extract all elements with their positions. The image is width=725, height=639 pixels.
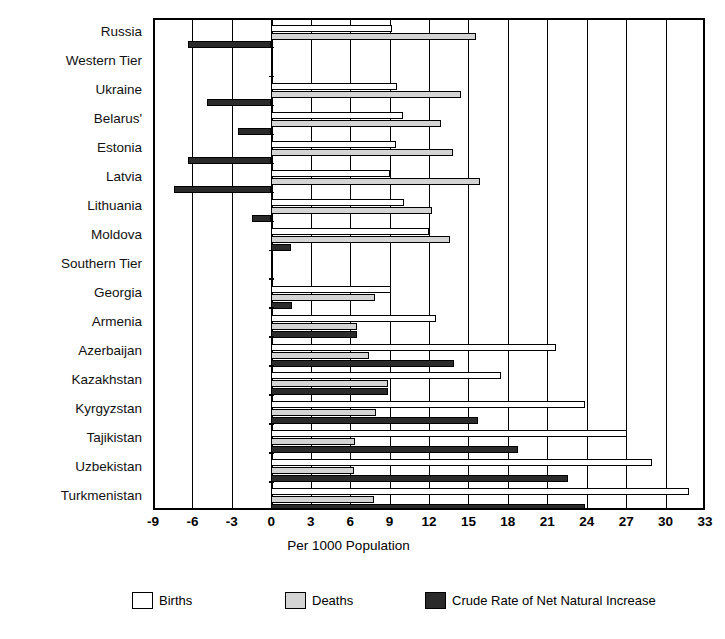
bar-births (271, 459, 652, 466)
bar-natural (238, 128, 271, 135)
bar-group (155, 454, 703, 483)
bar-group (155, 309, 703, 338)
bar-births (271, 372, 501, 379)
category-label: Moldova (91, 228, 142, 242)
x-tick-label: 30 (646, 514, 686, 529)
x-axis-title-text: Per 1000 Population (287, 538, 409, 553)
bar-natural (188, 157, 271, 164)
bar-natural (271, 417, 477, 424)
bar-group (155, 483, 703, 510)
bar-births (271, 430, 627, 437)
bar-births (271, 286, 391, 293)
legend-swatch-deaths (285, 592, 306, 609)
bar-deaths (271, 149, 452, 156)
bar-births (271, 315, 435, 322)
category-label: Estonia (97, 141, 142, 155)
bar-natural (188, 41, 271, 48)
bar-group (155, 252, 703, 281)
bar-natural (271, 360, 454, 367)
x-axis-title: Per 1000 Population (0, 538, 725, 553)
bar-natural (174, 186, 271, 193)
bar-deaths (271, 120, 441, 127)
category-label: Ukraine (95, 83, 142, 97)
category-label: Turkmenistan (61, 489, 142, 503)
bar-births (271, 25, 392, 32)
bar-group (155, 107, 703, 136)
x-tick-label: 12 (409, 514, 449, 529)
bar-deaths (271, 91, 460, 98)
bar-natural (271, 302, 292, 309)
bar-deaths (271, 380, 388, 387)
x-tick-label: 0 (251, 514, 291, 529)
legend-swatch-natural (425, 592, 446, 609)
legend-swatch-births (132, 592, 153, 609)
bar-group (155, 194, 703, 223)
bar-natural (271, 331, 356, 338)
chart-legend: BirthsDeathsCrude Rate of Net Natural In… (0, 588, 725, 618)
category-label: Kazakhstan (71, 373, 142, 387)
bar-group (155, 78, 703, 107)
bar-births (271, 141, 396, 148)
bar-deaths (271, 496, 374, 503)
bar-natural (271, 446, 518, 453)
bar-births (271, 170, 389, 177)
x-tick-label: 9 (370, 514, 410, 529)
bar-births (271, 344, 556, 351)
legend-item[interactable]: Crude Rate of Net Natural Increase (425, 592, 656, 609)
x-tick-label: 15 (448, 514, 488, 529)
category-label: Belarus' (94, 112, 142, 126)
category-label: Tajikistan (86, 431, 142, 445)
category-label: Southern Tier (61, 257, 142, 271)
bar-natural (271, 504, 585, 510)
legend-item[interactable]: Deaths (285, 592, 353, 609)
bar-deaths (271, 438, 355, 445)
bar-group (155, 425, 703, 454)
x-tick-label: -9 (133, 514, 173, 529)
bar-natural (207, 99, 271, 106)
bar-group (155, 165, 703, 194)
bar-group (155, 20, 703, 49)
bar-deaths (271, 33, 476, 40)
x-tick-label: -6 (172, 514, 212, 529)
category-label: Armenia (92, 315, 142, 329)
x-tick-label: 6 (330, 514, 370, 529)
chart-root: RussiaWestern TierUkraineBelarus'Estonia… (0, 0, 725, 639)
bar-deaths (271, 178, 480, 185)
bar-group (155, 136, 703, 165)
legend-label: Births (159, 593, 192, 608)
bar-births (271, 112, 402, 119)
bar-group (155, 338, 703, 367)
bar-deaths (271, 323, 356, 330)
bar-group (155, 49, 703, 78)
x-tick-label: 33 (685, 514, 725, 529)
bar-group (155, 396, 703, 425)
x-tick-label: 21 (527, 514, 567, 529)
bar-births (271, 199, 404, 206)
bar-births (271, 401, 585, 408)
bar-deaths (271, 236, 450, 243)
category-label: Uzbekistan (75, 460, 142, 474)
x-tick-label: 3 (291, 514, 331, 529)
legend-label: Deaths (312, 593, 353, 608)
bar-births (271, 488, 689, 495)
category-label: Latvia (106, 170, 142, 184)
plot-area (153, 18, 705, 510)
bar-deaths (271, 409, 376, 416)
bar-natural (271, 388, 388, 395)
bar-births (271, 83, 397, 90)
bar-deaths (271, 207, 431, 214)
bar-births (271, 228, 429, 235)
bar-deaths (271, 352, 368, 359)
x-axis-tick-labels: -9-6-303691215182124273033 (0, 514, 725, 536)
x-tick-label: 24 (567, 514, 607, 529)
bar-deaths (271, 467, 354, 474)
legend-item[interactable]: Births (132, 592, 192, 609)
x-tick-label: 18 (488, 514, 528, 529)
category-label: Western Tier (66, 54, 142, 68)
legend-label: Crude Rate of Net Natural Increase (452, 593, 656, 608)
bar-deaths (271, 294, 375, 301)
x-tick-label: -3 (212, 514, 252, 529)
category-label: Kyrgyzstan (75, 402, 142, 416)
category-label: Russia (101, 25, 142, 39)
category-label: Georgia (94, 286, 142, 300)
